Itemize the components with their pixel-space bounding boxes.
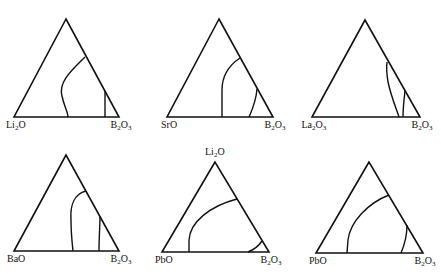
triangle-frame	[14, 155, 119, 251]
glass-region-boundary-1	[61, 57, 85, 117]
vertex-label-left: PbO	[309, 256, 327, 266]
glass-region-boundary-2	[99, 216, 100, 251]
ternary-diagrams-canvas	[0, 0, 441, 274]
glass-region-boundary-1	[347, 195, 389, 253]
vertex-label-left: BaO	[7, 254, 25, 264]
glass-region-boundary-1	[71, 191, 86, 251]
glass-region-boundary-2	[249, 89, 257, 117]
vertex-label-left: PbO	[155, 255, 173, 265]
triangle-frame	[316, 162, 423, 253]
ternary-diagram-6	[316, 162, 423, 253]
vertex-label-right: B2O3	[412, 120, 433, 132]
ternary-diagram-4	[14, 155, 119, 251]
ternary-diagram-5	[162, 162, 269, 252]
vertex-label-right: B2O3	[415, 256, 436, 268]
glass-region-boundary-1	[222, 58, 240, 117]
glass-region-boundary-1	[189, 199, 237, 252]
triangle-frame	[14, 19, 119, 117]
vertex-label-left: SrO	[161, 120, 177, 130]
ternary-diagram-1	[14, 19, 119, 117]
vertex-label-left: Li2O	[6, 120, 26, 132]
vertex-label-right: B2O3	[111, 120, 132, 132]
glass-region-boundary-2	[403, 91, 405, 117]
vertex-label-apex: Li2O	[205, 147, 225, 159]
ternary-diagram-2	[167, 19, 273, 117]
glass-region-boundary-2	[401, 225, 407, 253]
vertex-label-right: B2O3	[265, 120, 286, 132]
vertex-label-right: B2O3	[111, 254, 132, 266]
glass-region-boundary-2	[248, 241, 262, 252]
triangle-frame	[167, 19, 273, 117]
vertex-label-left: La2O3	[302, 120, 327, 132]
ternary-diagram-3	[312, 20, 420, 117]
vertex-label-right: B2O3	[261, 255, 282, 267]
